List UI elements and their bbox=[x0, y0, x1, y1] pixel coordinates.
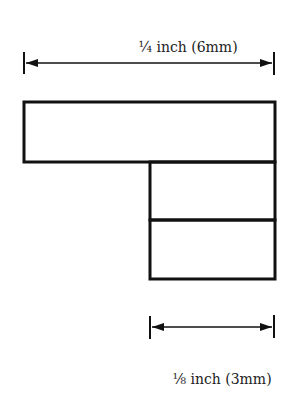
diagram-canvas: ¼ inch (6mm) ⅛ inch (3mm) bbox=[0, 0, 293, 401]
bottom-dimension: ⅛ inch (3mm) bbox=[150, 315, 274, 387]
upper-small-block bbox=[150, 162, 275, 220]
lower-small-block bbox=[150, 220, 275, 279]
block-shapes bbox=[24, 102, 275, 279]
top-dimension: ¼ inch (6mm) bbox=[24, 39, 274, 75]
wide-bar bbox=[24, 102, 275, 162]
top-dimension-label: ¼ inch (6mm) bbox=[138, 39, 237, 55]
bottom-dimension-label: ⅛ inch (3mm) bbox=[172, 371, 271, 387]
